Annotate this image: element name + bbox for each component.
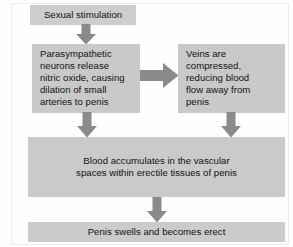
node-penis-erect-label: Penis swells and becomes erect bbox=[88, 226, 226, 238]
arrow-right-parasympathetic-to-veins bbox=[140, 63, 179, 88]
node-parasympathetic-neurons-label: Parasympathetic neurons release nitric o… bbox=[40, 48, 125, 108]
arrow-down-stimulation-to-parasympathetic bbox=[75, 24, 97, 45]
arrow-down-veins-to-accumulates bbox=[220, 112, 242, 138]
arrow-down-accumulates-to-erect bbox=[146, 197, 168, 223]
node-blood-accumulates-label: Blood accumulates in the vascular spaces… bbox=[76, 155, 237, 179]
node-blood-accumulates: Blood accumulates in the vascular spaces… bbox=[28, 137, 285, 197]
node-sexual-stimulation-label: Sexual stimulation bbox=[44, 9, 122, 21]
diagram-canvas: Sexual stimulation Parasympathetic neuro… bbox=[0, 0, 293, 247]
node-veins-compressed-label: Veins are compressed, reducing blood flo… bbox=[186, 48, 250, 108]
node-veins-compressed: Veins are compressed, reducing blood flo… bbox=[178, 44, 285, 113]
node-sexual-stimulation: Sexual stimulation bbox=[30, 5, 136, 25]
node-parasympathetic-neurons: Parasympathetic neurons release nitric o… bbox=[32, 44, 140, 113]
node-penis-erect: Penis swells and becomes erect bbox=[28, 222, 285, 242]
arrow-down-parasympathetic-to-accumulates bbox=[76, 112, 98, 138]
